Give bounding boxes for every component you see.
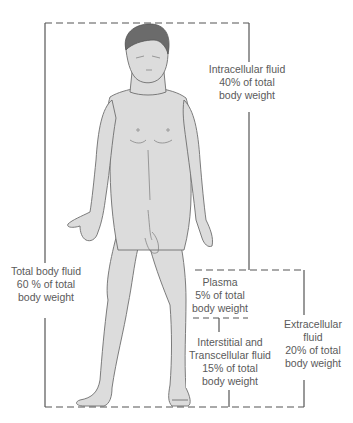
body-fluid-diagram: Intracellular fluid 40% of total body we… [0,0,353,423]
interstitial-fluid-label: Interstitial and Transcellular fluid 15%… [186,336,274,388]
extracellular-fluid-label: Extracellular fluid 20% of total body we… [276,318,350,370]
intracellular-fluid-label: Intracellular fluid 40% of total body we… [202,63,292,102]
total-body-fluid-label: Total body fluid 60 % of total body weig… [6,265,86,304]
plasma-label: Plasma 5% of total body weight [192,276,248,315]
